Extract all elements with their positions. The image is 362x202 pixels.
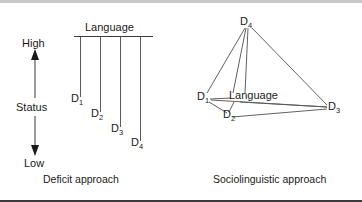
deficit-node-d2: D2: [91, 108, 103, 122]
socio-language-label: Language: [229, 90, 278, 101]
edge-d4-d2: [245, 28, 248, 93]
socio-node-d4: D4: [240, 16, 252, 30]
socio-node-d2: D2: [223, 109, 235, 123]
socio-node-d3-base: D: [328, 100, 336, 112]
status-axis-up-arrow: [31, 49, 39, 98]
status-axis-low-label: Low: [24, 158, 44, 169]
deficit-node-d3: D3: [111, 123, 123, 137]
deficit-node-d2-sub: 2: [99, 113, 103, 122]
edge-lang-d3: [240, 102, 327, 107]
socio-node-d3: D3: [328, 101, 340, 115]
socio-node-d1-base: D: [197, 90, 205, 102]
deficit-node-d1-sub: 1: [79, 98, 83, 107]
socio-node-d2-sub: 2: [231, 114, 235, 123]
deficit-node-d2-base: D: [91, 107, 99, 119]
figure-container: High Status Low Language D1 D2 D3 D4 Def…: [0, 0, 362, 202]
deficit-approach-caption: Deficit approach: [43, 173, 119, 185]
status-axis-down-arrow: [31, 116, 39, 156]
socio-node-d1: D1: [197, 91, 209, 105]
edge-d1-lang: [210, 98, 231, 99]
deficit-node-d1: D1: [71, 93, 83, 107]
status-axis-status-label: Status: [16, 102, 47, 113]
socio-node-d1-sub: 1: [205, 96, 209, 105]
socio-node-d2-base: D: [223, 108, 231, 120]
deficit-node-d4-base: D: [131, 136, 139, 148]
socio-node-d3-sub: 3: [336, 106, 340, 115]
socio-node-d4-base: D: [240, 15, 248, 27]
sociolinguistic-approach-caption: Sociolinguistic approach: [213, 173, 326, 185]
deficit-node-d3-sub: 3: [119, 128, 123, 137]
deficit-node-d1-base: D: [71, 92, 79, 104]
edge-d2-d3: [232, 109, 327, 117]
deficit-node-d3-base: D: [111, 122, 119, 134]
sociolinguistic-panel-graphics: [207, 28, 327, 117]
deficit-language-label: Language: [85, 22, 134, 33]
deficit-node-d4: D4: [131, 137, 143, 151]
socio-node-d4-sub: 4: [248, 21, 252, 30]
deficit-node-d4-sub: 4: [139, 142, 143, 151]
status-axis-high-label: High: [22, 38, 45, 49]
